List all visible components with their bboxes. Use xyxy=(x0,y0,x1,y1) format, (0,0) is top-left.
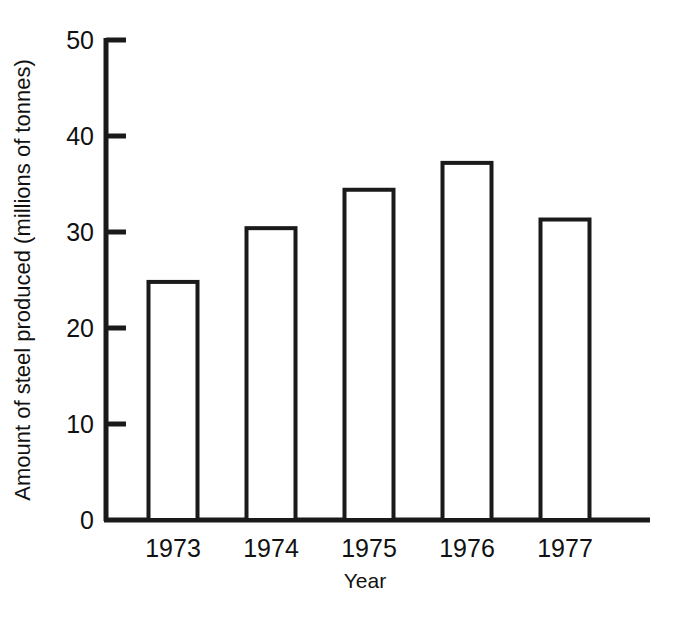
y-tick-label-10: 10 xyxy=(66,410,94,438)
bar-1975 xyxy=(345,190,394,520)
bar-1974 xyxy=(247,228,296,520)
x-tick-label-1975: 1975 xyxy=(341,534,397,562)
bar-1977 xyxy=(541,220,590,520)
y-tick-label-40: 40 xyxy=(66,122,94,150)
x-axis-title: Year xyxy=(344,569,386,592)
x-tick-label-1977: 1977 xyxy=(537,534,593,562)
bar-1976 xyxy=(443,163,492,520)
bar-1973 xyxy=(149,282,198,520)
y-tick-label-30: 30 xyxy=(66,218,94,246)
x-tick-label-1973: 1973 xyxy=(145,534,201,562)
bar-chart-figure: 50 40 30 20 10 0 19731974197519761977 Ye… xyxy=(0,0,676,627)
y-axis-title: Amount of steel produced (millions of to… xyxy=(10,59,35,500)
y-tick-label-0: 0 xyxy=(80,506,94,534)
y-tick-label-50: 50 xyxy=(66,26,94,54)
x-tick-label-1976: 1976 xyxy=(439,534,495,562)
y-tick-label-20: 20 xyxy=(66,314,94,342)
x-tick-label-1974: 1974 xyxy=(243,534,299,562)
chart-canvas: 50 40 30 20 10 0 19731974197519761977 Ye… xyxy=(0,0,676,627)
